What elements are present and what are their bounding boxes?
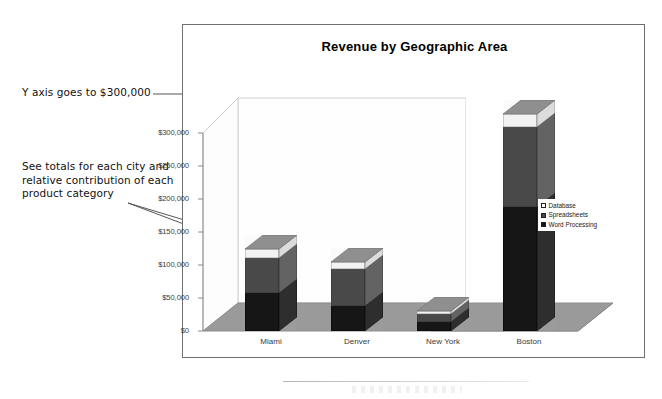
legend-label-word-processing: Word Processing bbox=[549, 220, 598, 229]
x-tick-label-denver: Denver bbox=[322, 337, 392, 346]
chart-svg bbox=[183, 25, 646, 359]
legend-label-database: Database bbox=[549, 201, 576, 210]
x-tick-label-new-york: New York bbox=[408, 337, 478, 346]
legend-item-word-processing: Word Processing bbox=[541, 220, 597, 229]
legend-item-spreadsheets: Spreadsheets bbox=[541, 210, 597, 219]
chart-legend: Database Spreadsheets Word Processing bbox=[538, 199, 600, 231]
scan-artifact-line bbox=[283, 381, 529, 382]
y-tick-label: $100,000 bbox=[137, 260, 189, 269]
chart-frame: Revenue by Geographic Area bbox=[182, 24, 645, 358]
left-wall bbox=[203, 98, 238, 331]
x-tick-label-miami: Miami bbox=[236, 337, 306, 346]
legend-swatch-word-processing bbox=[541, 222, 546, 227]
legend-item-database: Database bbox=[541, 201, 597, 210]
y-axis-ticks bbox=[198, 133, 203, 331]
bar-group-denver bbox=[331, 248, 383, 331]
bar-group-miami bbox=[245, 235, 297, 331]
y-tick-label: $200,000 bbox=[137, 194, 189, 203]
annotation-y-axis-note: Y axis goes to $300,000 bbox=[22, 86, 151, 100]
y-tick-label: $0 bbox=[137, 326, 189, 335]
y-tick-label: $300,000 bbox=[137, 128, 189, 137]
legend-swatch-spreadsheets bbox=[541, 213, 546, 218]
scan-artifact-ghost-text bbox=[352, 386, 462, 393]
legend-swatch-database bbox=[541, 203, 546, 208]
y-tick-label: $50,000 bbox=[137, 293, 189, 302]
x-tick-label-boston: Boston bbox=[494, 337, 564, 346]
plot-area: $300,000 $250,000 $200,000 $150,000 $100… bbox=[183, 25, 646, 359]
screenshot-root: Y axis goes to $300,000 See totals for e… bbox=[0, 0, 662, 399]
y-tick-label: $150,000 bbox=[137, 227, 189, 236]
legend-label-spreadsheets: Spreadsheets bbox=[549, 210, 588, 219]
y-tick-label: $250,000 bbox=[137, 161, 189, 170]
